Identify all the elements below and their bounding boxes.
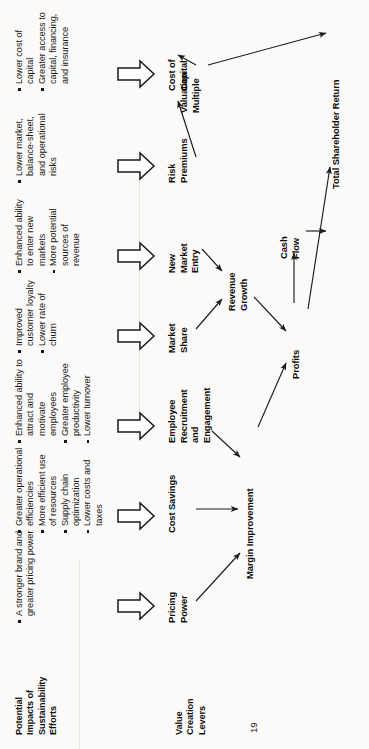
- bullets-market-share: Improved customer loyalty Lower rate of …: [14, 271, 60, 353]
- node-cost-savings: Cost Savings: [166, 449, 178, 533]
- bullets-cost-of-capital: Lower cost of capital Greater access to …: [14, 7, 71, 91]
- list-item: More potential sources of revenue: [48, 191, 82, 273]
- block-arrow-cost-savings: [116, 501, 160, 531]
- list-item: Greater access to capital, financing, an…: [37, 7, 71, 91]
- diagram-canvas: Potential Impacts of Sustainability Effo…: [0, 0, 369, 749]
- edge-new-market-to-revenue: [202, 249, 222, 271]
- edge-valuation-to-tsr: [208, 33, 326, 65]
- list-item: Supply chain optimization: [60, 447, 83, 533]
- edge-revenue-to-profits: [254, 297, 286, 331]
- edge-margin-to-profits: [258, 363, 286, 427]
- list-item: Lower costs and taxes: [82, 447, 105, 533]
- node-pricing-power: Pricing Power: [166, 543, 189, 623]
- page-number: 19: [248, 722, 259, 733]
- scan-rule: [139, 159, 140, 419]
- block-arrow-employee-recruitment: [116, 411, 160, 441]
- block-arrow-market-share: [116, 321, 160, 351]
- list-item: Lower rate of churn: [37, 271, 60, 353]
- list-item: Greater operational efficiencies: [14, 447, 37, 533]
- node-profits: Profits: [290, 309, 302, 379]
- node-employee-recruitment-and-engagement: Employee Recruitment and Engagement: [166, 359, 212, 443]
- list-item: Greater employee productivity: [60, 357, 83, 443]
- block-arrow-new-market-entry: [116, 241, 160, 271]
- node-new-market-entry: New Market Entry: [166, 197, 201, 273]
- list-item: More efficient use of resources: [37, 447, 60, 533]
- list-item: Lower turnover: [82, 357, 93, 443]
- list-item: Enhanced ability to enter new markets: [14, 191, 48, 273]
- bullets-risk-premiums: Lower market, balance-sheet, and operati…: [14, 99, 60, 183]
- node-market-share: Market Share: [166, 277, 189, 353]
- edge-employee-to-margin: [212, 431, 240, 457]
- list-item: Enhanced ability to attract and motivate…: [14, 357, 60, 443]
- node-revenue-growth: Revenue Growth: [226, 231, 249, 311]
- column-header-levers: Value Creation Levers: [174, 625, 208, 735]
- list-item: Lower cost of capital: [14, 7, 37, 91]
- block-arrow-risk-premiums: [116, 151, 160, 181]
- node-total-shareholder-return: Total Shareholder Return: [330, 9, 342, 189]
- column-header-impacts: Potential Impacts of Sustainability Effo…: [14, 625, 60, 735]
- list-item: Improved customer loyalty: [14, 271, 37, 353]
- block-arrow-cost-of-capital: [116, 59, 160, 89]
- list-item: A stronger brand and greater pricing pow…: [14, 527, 37, 623]
- node-risk-premiums: Risk Premiums: [166, 103, 189, 183]
- bullets-employee-recruitment: Enhanced ability to attract and motivate…: [14, 357, 94, 443]
- node-valuation-multiple: Valuation Multiple: [178, 23, 201, 113]
- edge-profits-to-tsr: [308, 167, 330, 309]
- edge-pricing-power-to-margin: [196, 553, 240, 601]
- bullets-pricing-power: A stronger brand and greater pricing pow…: [14, 527, 37, 623]
- scan-rule: [79, 559, 80, 749]
- bullets-new-market-entry: Enhanced ability to enter new markets Mo…: [14, 191, 82, 273]
- list-item: Lower market, balance-sheet, and operati…: [14, 99, 60, 183]
- node-margin-improvement: Margin Improvement: [244, 429, 256, 579]
- edge-market-share-to-revenue: [196, 299, 222, 329]
- block-arrow-pricing-power: [116, 591, 160, 621]
- node-cash-flow: Cash Flow: [278, 199, 301, 259]
- bullets-cost-savings: Greater operational efficiencies More ef…: [14, 447, 105, 533]
